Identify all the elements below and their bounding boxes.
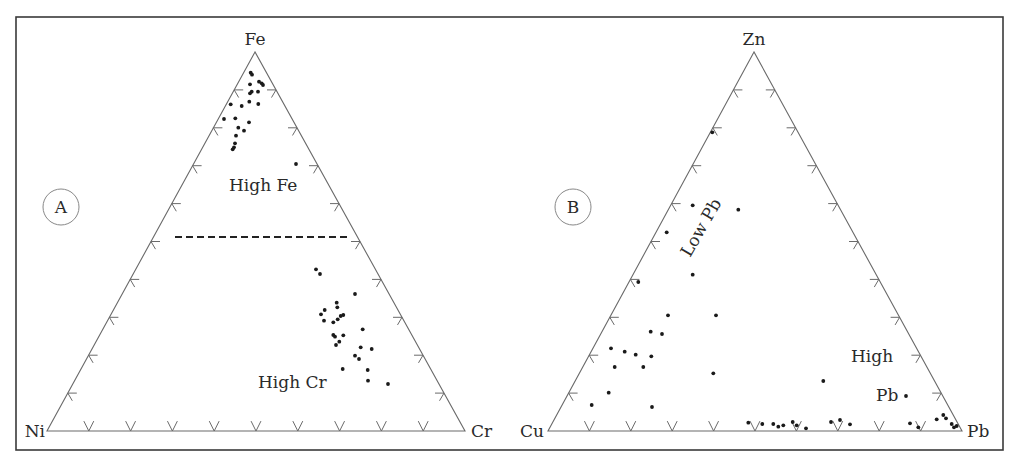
data-point [950,422,954,426]
region-label-high-fe: High Fe [229,175,297,195]
data-point [233,141,237,145]
data-point [229,102,233,106]
data-point [795,423,799,427]
data-point [335,305,339,309]
data-point [353,292,357,296]
data-point [908,421,912,425]
data-point [294,162,298,166]
data-point [334,343,338,347]
data-point [240,104,244,108]
data-point [361,327,365,331]
vertex-label-pb: Pb [967,421,989,441]
data-point [838,418,842,422]
data-point [821,379,825,383]
data-point [609,346,613,350]
panel-letter-a: A [54,197,68,217]
data-point [359,345,363,349]
vertex-label-zn: Zn [743,29,766,49]
data-point [636,280,640,284]
data-point [366,379,370,383]
data-point [955,424,959,428]
data-point [386,382,390,386]
vertex-label-ni: Ni [25,421,46,441]
data-point [941,413,945,417]
data-point [242,129,246,133]
data-point [248,82,252,86]
data-point [590,403,594,407]
data-point [714,313,718,317]
data-point [746,421,750,425]
data-point [666,313,670,317]
data-point [641,365,645,369]
data-point [314,267,318,271]
data-point [322,319,326,323]
data-point [236,126,240,130]
data-point [736,208,740,212]
data-point [613,365,617,369]
data-point [776,425,780,429]
data-point [710,130,714,134]
data-point [649,330,653,334]
data-point [760,422,764,426]
data-point [222,117,226,121]
data-point [771,422,775,426]
data-point [336,317,340,321]
data-point [335,301,339,305]
data-point [353,354,357,358]
data-point [665,230,669,234]
data-point [231,147,235,151]
data-point [691,273,695,277]
data-point [791,420,795,424]
data-point [256,90,260,94]
data-point [829,420,833,424]
data-point [341,333,345,337]
data-point [233,116,237,120]
region-label-pb: Pb [876,385,898,405]
data-point [944,416,948,420]
data-point [247,120,251,124]
data-point [607,391,611,395]
data-point [634,353,638,357]
data-point [711,371,715,375]
data-point [848,422,852,426]
data-point [649,354,653,358]
data-point [357,357,361,361]
data-point [331,320,335,324]
ternary-figure: A Fe Ni Cr High Fe High Cr B Zn Cu Pb Lo… [0,0,1015,462]
data-point [781,423,785,427]
data-point [623,350,627,354]
region-label-high: High [851,346,893,366]
data-point [916,425,920,429]
figure-frame [16,17,1003,450]
data-point [339,314,343,318]
data-point [247,100,251,104]
data-point [366,368,370,372]
data-point [261,83,265,87]
data-point [904,394,908,398]
data-point [234,134,238,138]
data-point [323,308,327,312]
data-point [318,272,322,276]
data-point [660,332,664,336]
data-point [650,405,654,409]
data-point [319,312,323,316]
data-point [935,417,939,421]
panel-letter-b: B [567,197,580,217]
data-point [804,426,808,430]
vertex-label-cr: Cr [471,421,493,441]
vertex-label-cu: Cu [520,421,544,441]
data-point [256,102,260,106]
data-point [691,203,695,207]
vertex-label-fe: Fe [245,29,266,49]
region-label-high-cr: High Cr [258,372,328,392]
data-point [337,340,341,344]
data-point [333,335,337,339]
data-point [341,367,345,371]
data-point [248,91,252,95]
data-point [250,73,254,77]
data-point [370,347,374,351]
